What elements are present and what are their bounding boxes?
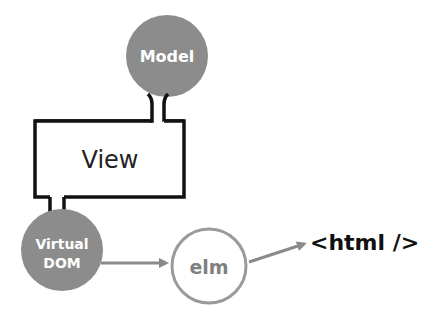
view-label: View	[82, 146, 139, 174]
model-view-connector	[35, 94, 184, 121]
html-output-label: <html />	[310, 230, 419, 255]
virtual-dom-label-line2: DOM	[43, 255, 80, 271]
elm-node: elm	[172, 229, 246, 303]
elm-label: elm	[189, 256, 228, 278]
virtual-dom-label-line1: Virtual	[35, 236, 88, 252]
elm-to-html-arrow	[249, 244, 304, 262]
view-node: View	[35, 121, 184, 197]
virtual-dom-node: Virtual DOM	[21, 209, 103, 291]
model-node: Model	[126, 15, 208, 97]
model-label: Model	[140, 47, 195, 66]
diagram-canvas: Model View Virtual DOM elm <html />	[0, 0, 440, 318]
